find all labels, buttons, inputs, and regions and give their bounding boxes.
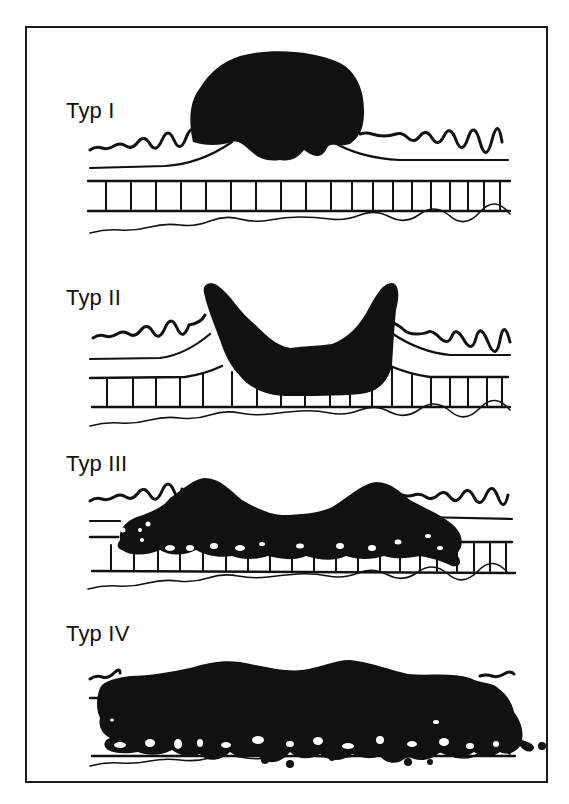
serosa-wave-line — [90, 204, 510, 233]
panel-typ1 — [88, 51, 510, 233]
serosa-wave-line — [88, 563, 508, 589]
surface-wave-line — [93, 315, 510, 352]
lesion-typ1 — [190, 51, 364, 160]
lesion-types-diagram — [0, 0, 569, 804]
panel-typ2 — [90, 283, 510, 426]
lesion-typ3 — [118, 478, 462, 566]
surface-wave-line — [90, 484, 508, 505]
panel-typ4 — [90, 660, 546, 768]
panel-typ3 — [88, 478, 515, 589]
serosa-wave-line — [90, 400, 510, 426]
ladder-rungs — [106, 181, 500, 211]
